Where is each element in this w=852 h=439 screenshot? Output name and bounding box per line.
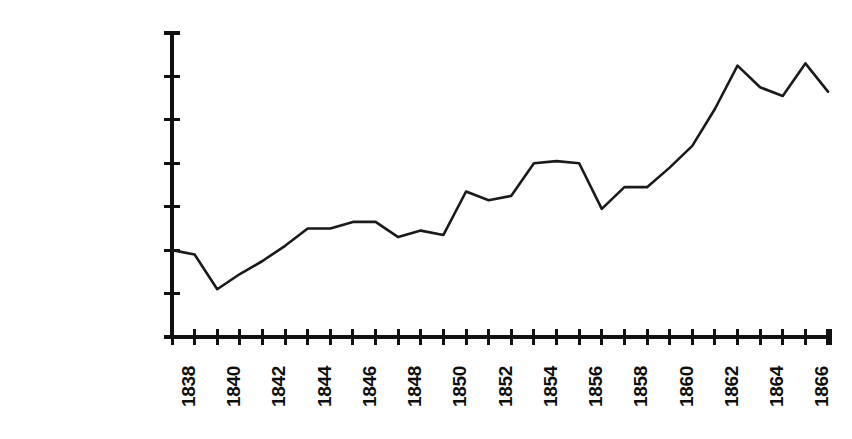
x-axis-tick-label: 1862 (722, 366, 741, 407)
x-axis-tick-label: 1846 (360, 366, 379, 407)
x-axis-tick-label: 1838 (179, 366, 198, 407)
x-axis-tick-label: 1842 (269, 366, 288, 407)
x-axis-tick-labels: 1838184018421844184618481850185218541856… (0, 0, 852, 439)
x-axis-tick-label: 1856 (586, 366, 605, 407)
x-axis-tick-label: 1860 (677, 366, 696, 407)
x-axis-tick-label: 1866 (812, 366, 831, 407)
x-axis-tick-label: 1854 (541, 366, 560, 407)
x-axis-tick-label: 1850 (450, 366, 469, 407)
x-axis-tick-label: 1840 (224, 366, 243, 407)
x-axis-tick-label: 1858 (631, 366, 650, 407)
line-chart: 1400000001200000001000000008000000060000… (0, 0, 852, 439)
x-axis-tick-label: 1864 (767, 366, 786, 407)
x-axis-tick-label: 1852 (496, 366, 515, 407)
x-axis-tick-label: 1844 (315, 366, 334, 407)
x-axis-tick-label: 1848 (405, 366, 424, 407)
